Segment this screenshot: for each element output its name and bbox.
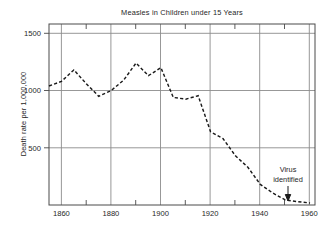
xtick-label-1860: 1860 [53, 209, 70, 218]
y-axis-label: Death rate per 1,000,000 [19, 72, 28, 157]
xtick-label-1900: 1900 [152, 209, 169, 218]
measles-chart-figure: Measles in Children under 15 Years [0, 0, 335, 242]
ytick-label-1500: 1500 [24, 29, 41, 38]
annotation-line-1: Virus [280, 165, 297, 174]
chart-title: Measles in Children under 15 Years [121, 8, 243, 17]
xtick-label-1940: 1940 [251, 209, 268, 218]
xtick-label-1880: 1880 [102, 209, 119, 218]
ytick-label-500: 500 [28, 144, 41, 153]
xtick-label-1920: 1920 [202, 209, 219, 218]
y-axis-ticks [44, 33, 49, 148]
xtick-label-1960: 1960 [301, 209, 318, 218]
annotation-line-2: identified [273, 175, 303, 184]
chart-canvas: Measles in Children under 15 Years [0, 0, 335, 242]
